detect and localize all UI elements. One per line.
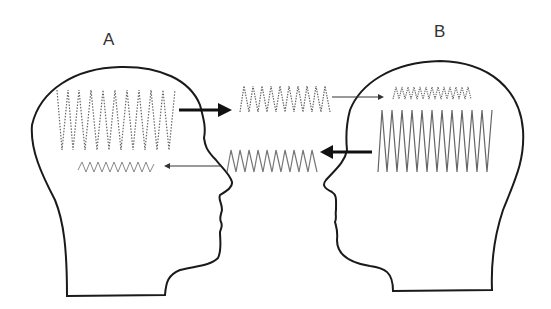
arrow-b-out-head — [320, 145, 333, 159]
arrow-to-a-head — [164, 163, 170, 169]
person-a-label: A — [103, 30, 114, 50]
diagram-canvas — [0, 0, 551, 309]
head-a-outline — [32, 67, 232, 296]
wave-a-to-b-transmitted — [240, 86, 330, 112]
wave-b-received-weak — [393, 87, 471, 99]
wave-a-internal-strong — [57, 90, 175, 150]
arrow-to-b-head — [378, 94, 384, 100]
arrow-a-out-head — [218, 103, 232, 117]
wave-b-to-a-transmitted — [227, 150, 317, 172]
wave-a-received-weak — [78, 162, 154, 172]
wave-b-internal-strong — [378, 110, 492, 172]
person-b-label: B — [434, 22, 445, 42]
